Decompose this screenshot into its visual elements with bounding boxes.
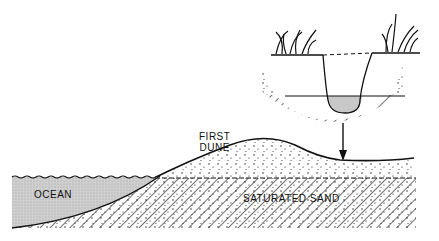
inset-pit	[255, 14, 420, 135]
first-dune	[150, 139, 414, 181]
first-dune-label-line2: DUNE	[199, 142, 230, 153]
ocean-label: OCEAN	[34, 189, 72, 200]
diagram-drawing	[0, 0, 439, 241]
saturated-sand-label: SATURATED SAND	[243, 193, 340, 204]
first-dune-label: FIRST DUNE	[199, 131, 230, 153]
grass-tufts	[276, 14, 418, 54]
dune-water-table-diagram: FIRST DUNE OCEAN SATURATED SAND	[0, 0, 439, 241]
first-dune-label-line1: FIRST	[199, 131, 230, 142]
arrow-to-swale	[339, 123, 347, 161]
